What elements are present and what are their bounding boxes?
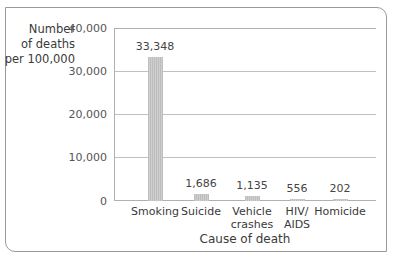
x-axis-title: Cause of death	[200, 232, 291, 246]
bar-smoking	[148, 57, 163, 201]
y-tick-0: 0	[100, 195, 107, 208]
value-label: 1,686	[185, 177, 217, 190]
x-tick-label: Smoking	[131, 205, 179, 218]
x-tick-label: Vehiclecrashes	[231, 205, 274, 231]
y-axis-title-line: per 100,000	[5, 52, 75, 67]
x-tick-label: Homicide	[314, 205, 366, 218]
x-tick-label: Suicide	[181, 205, 221, 218]
value-label: 1,135	[236, 179, 268, 192]
x-tick-label: HIV/AIDS	[284, 205, 310, 231]
y-tick-40000: 40,000	[69, 22, 108, 35]
bar-hiv-aids	[290, 199, 305, 201]
y-axis-title: Number of deaths per 100,000	[5, 22, 75, 67]
y-tick-20000: 20,000	[69, 108, 108, 121]
y-tick-10000: 10,000	[69, 151, 108, 164]
y-tick-30000: 30,000	[69, 65, 108, 78]
y-axis-title-line: Number	[5, 22, 75, 37]
bar-vehicle-crashes	[245, 196, 260, 201]
bar-suicide	[194, 194, 209, 201]
bar-homicide	[333, 199, 348, 201]
value-label: 556	[287, 182, 308, 195]
value-label: 33,348	[136, 40, 175, 53]
y-axis-title-line: of deaths	[5, 37, 75, 52]
value-label: 202	[330, 182, 351, 195]
